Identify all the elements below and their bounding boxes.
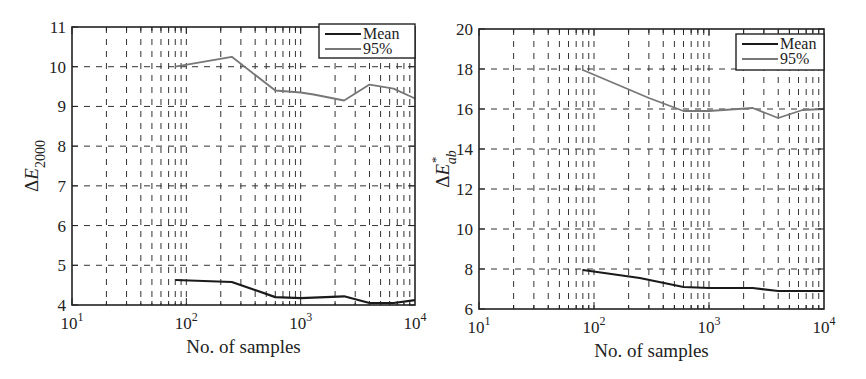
legend-label-95-percent: 95% <box>780 50 809 67</box>
x-tick-label: 102 <box>175 310 198 333</box>
y-tick-label: 7 <box>58 177 67 196</box>
y-tick-label: 6 <box>58 217 67 236</box>
chart-delta-eab: 68101214161820101102103104No. of samples… <box>433 0 866 379</box>
y-tick-label: 6 <box>465 300 474 319</box>
y-tick-label: 10 <box>456 220 473 239</box>
y-tick-label: 10 <box>49 58 66 77</box>
y-tick-label: 4 <box>58 296 67 315</box>
plot-frame <box>72 27 415 305</box>
chart-delta-e2000: 4567891011101102103104No. of samplesΔE20… <box>0 0 433 379</box>
x-tick-label: 104 <box>813 314 836 337</box>
x-tick-labels: 101102103104 <box>468 314 836 337</box>
y-axis-title: ΔE*ab <box>428 150 459 187</box>
y-axis-title: ΔE2000 <box>21 140 48 192</box>
legend: Mean95% <box>319 24 415 58</box>
y-tick-label: 18 <box>456 60 473 79</box>
x-tick-label: 101 <box>61 310 84 333</box>
x-tick-labels: 101102103104 <box>61 310 427 333</box>
y-tick-label: 5 <box>58 256 67 275</box>
grid <box>72 27 415 305</box>
x-axis-title: No. of samples <box>186 336 301 357</box>
y-tick-label: 20 <box>456 20 473 39</box>
x-tick-label: 101 <box>468 314 491 337</box>
chart-svg: 68101214161820101102103104No. of samples… <box>433 0 866 379</box>
legend-label-95-percent: 95% <box>363 40 392 57</box>
x-tick-label: 103 <box>698 314 721 337</box>
x-tick-label: 103 <box>289 310 312 333</box>
plot-frame <box>479 29 824 309</box>
y-tick-label: 16 <box>456 100 473 119</box>
chart-svg: 4567891011101102103104No. of samplesΔE20… <box>0 0 433 379</box>
legend: Mean95% <box>736 34 824 70</box>
y-tick-label: 11 <box>50 18 66 37</box>
y-tick-label: 9 <box>58 97 67 116</box>
y-tick-label: 8 <box>465 260 474 279</box>
x-tick-label: 104 <box>404 310 427 333</box>
y-tick-labels: 4567891011 <box>49 18 415 315</box>
grid <box>479 29 824 309</box>
y-tick-label: 12 <box>456 180 473 199</box>
y-tick-label: 8 <box>58 137 67 156</box>
x-tick-label: 102 <box>583 314 606 337</box>
x-axis-title: No. of samples <box>594 340 709 361</box>
